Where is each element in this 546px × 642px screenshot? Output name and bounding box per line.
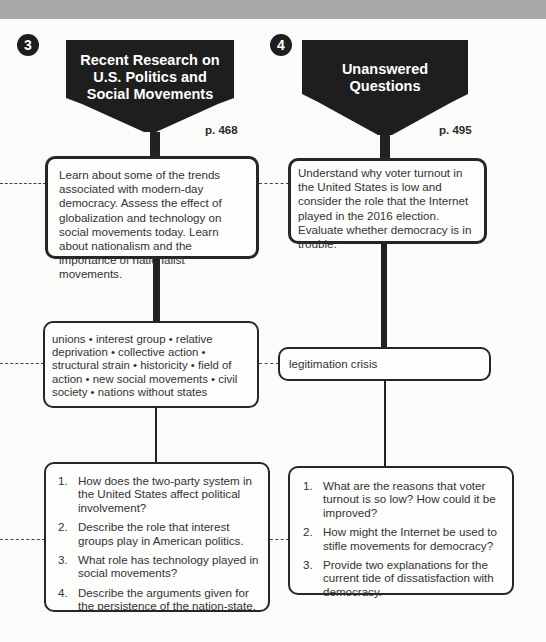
section-number-badge: 3 (17, 34, 39, 56)
dashed-connector (0, 539, 45, 540)
questions-box: 1.What are the reasons that voter turnou… (288, 466, 514, 595)
question-text: Describe the role that interest groups p… (78, 520, 244, 546)
section-title-line: Questions (302, 78, 468, 95)
section-banner: Recent Research on U.S. Politics and Soc… (66, 40, 234, 132)
question-item: 4.Describe the arguments given for the p… (58, 586, 260, 613)
dashed-connector (259, 183, 289, 184)
question-number: 3. (303, 558, 313, 571)
page-reference: p. 468 (205, 124, 238, 136)
connector-line (381, 243, 387, 348)
section-title-line: Unanswered (302, 61, 468, 78)
question-number: 3. (58, 553, 68, 566)
questions-list: 1.How does the two-party system in the U… (58, 474, 260, 613)
questions-list: 1.What are the reasons that voter turnou… (303, 479, 504, 598)
question-item: 3.Provide two explanations for the curre… (303, 558, 504, 598)
questions-box: 1.How does the two-party system in the U… (44, 462, 270, 612)
question-text: Describe the arguments given for the per… (78, 586, 256, 612)
section-title: Recent Research on U.S. Politics and Soc… (66, 52, 234, 103)
question-text: What role has technology played in socia… (78, 553, 258, 579)
question-text: How does the two-party system in the Uni… (78, 474, 252, 514)
dashed-connector (0, 183, 46, 184)
learning-objectives-text: Understand why voter turnout in the Unit… (298, 166, 478, 251)
learning-objectives-box: Understand why voter turnout in the Unit… (288, 158, 487, 244)
dashed-connector (270, 539, 289, 540)
connector-line (155, 407, 157, 463)
question-item: 1.What are the reasons that voter turnou… (303, 479, 504, 519)
question-text: What are the reasons that voter turnout … (323, 479, 496, 519)
dashed-connector (259, 363, 279, 364)
question-text: How might the Internet be used to stifle… (323, 525, 497, 551)
section-banner: Unanswered Questions (302, 40, 468, 135)
question-number: 1. (303, 479, 313, 492)
connector-line (150, 132, 160, 159)
top-band (0, 0, 546, 19)
key-terms-box: unions • interest group • relative depri… (43, 321, 259, 408)
question-item: 1.How does the two-party system in the U… (58, 474, 260, 514)
question-number: 2. (58, 520, 68, 533)
connector-line (380, 135, 390, 159)
connector-line (153, 259, 160, 322)
question-text: Provide two explanations for the current… (323, 558, 494, 598)
section-title-line: Social Movements (66, 86, 234, 103)
question-item: 3.What role has technology played in soc… (58, 553, 260, 580)
section-title-line: U.S. Politics and (66, 69, 234, 86)
key-terms-text: unions • interest group • relative depri… (52, 333, 251, 399)
connector-line (384, 380, 386, 467)
question-number: 2. (303, 525, 313, 538)
section-title: Unanswered Questions (302, 61, 468, 95)
key-terms-text: legitimation crisis (289, 357, 479, 371)
question-number: 4. (58, 586, 68, 599)
page-reference: p. 495 (439, 124, 472, 136)
dashed-connector (0, 363, 44, 364)
key-terms-box: legitimation crisis (278, 347, 491, 381)
learning-objectives-box: Learn about some of the trends associate… (45, 156, 259, 259)
question-item: 2.Describe the role that interest groups… (58, 520, 260, 547)
section-number-badge: 4 (270, 34, 292, 56)
question-item: 2.How might the Internet be used to stif… (303, 525, 504, 552)
section-title-line: Recent Research on (66, 52, 234, 69)
question-number: 1. (58, 474, 68, 487)
